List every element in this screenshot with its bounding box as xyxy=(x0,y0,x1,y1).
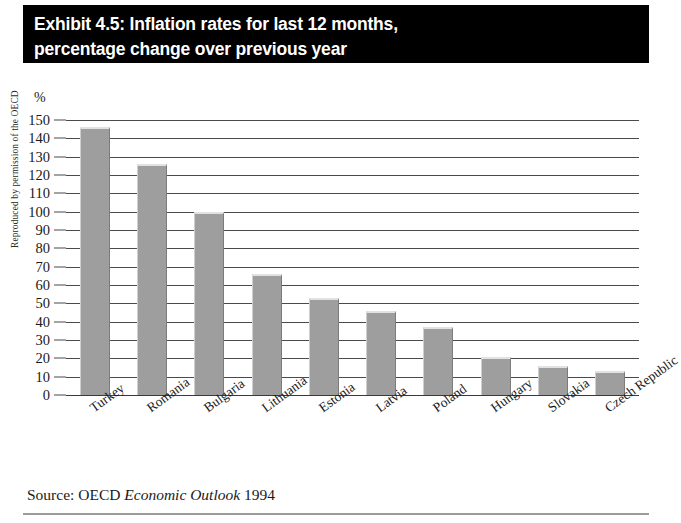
y-axis-tick-label: 40 xyxy=(36,314,51,329)
y-axis-tick-label: 130 xyxy=(28,149,50,164)
bar-slot xyxy=(194,120,224,395)
x-axis-category-labels: TurkeyRomaniaBulgariaLithuaniaEstoniaLat… xyxy=(66,395,639,475)
vertical-credit-container: Reproduced by permission of the OECD xyxy=(0,0,24,523)
bar-slot xyxy=(481,120,511,395)
page-title-line-2: percentage change over previous year xyxy=(34,37,639,62)
y-axis-tick xyxy=(54,156,66,157)
plot-area xyxy=(66,120,639,395)
y-axis-tick xyxy=(54,376,66,377)
y-axis-labels: 0102030405060708090100110120130140150 xyxy=(23,120,66,395)
y-axis-tick xyxy=(54,175,66,176)
y-axis-unit-label: % xyxy=(34,90,46,106)
bar xyxy=(252,274,282,395)
source-year: 1994 xyxy=(244,486,275,503)
y-axis-tick xyxy=(54,230,66,231)
bar-slot xyxy=(252,120,282,395)
bar xyxy=(80,127,110,395)
y-axis-tick xyxy=(54,120,66,121)
bottom-divider xyxy=(23,513,649,515)
y-axis-tick xyxy=(54,321,66,322)
source-attribution: Source: OECD Economic Outlook 1994 xyxy=(27,486,275,504)
bar xyxy=(423,327,453,395)
y-axis-tick-label: 100 xyxy=(28,204,50,219)
y-axis-tick-label: 30 xyxy=(36,333,51,348)
y-axis-tick-label: 90 xyxy=(36,223,51,238)
bar-chart: % 0102030405060708090100110120130140150 … xyxy=(23,76,649,476)
y-axis-tick-label: 150 xyxy=(28,113,50,128)
bar-slot xyxy=(137,120,167,395)
y-axis-tick xyxy=(54,193,66,194)
bar-slot xyxy=(309,120,339,395)
y-axis-tick xyxy=(54,266,66,267)
y-axis-tick xyxy=(54,285,66,286)
bar-slot xyxy=(366,120,396,395)
y-axis-tick xyxy=(54,138,66,139)
bar-series xyxy=(66,120,639,395)
y-axis-tick xyxy=(54,211,66,212)
y-axis-tick xyxy=(54,395,66,396)
y-axis-tick xyxy=(54,340,66,341)
bar xyxy=(137,164,167,395)
page-title-line-1: Exhibit 4.5: Inflation rates for last 12… xyxy=(34,12,639,37)
y-axis-tick xyxy=(54,358,66,359)
source-prefix: Source: OECD xyxy=(27,486,120,503)
y-axis-tick-label: 0 xyxy=(43,388,50,403)
bar-slot xyxy=(538,120,568,395)
y-axis-tick-label: 60 xyxy=(36,278,51,293)
bar-slot xyxy=(423,120,453,395)
y-axis-tick xyxy=(54,303,66,304)
y-axis-tick-label: 80 xyxy=(36,241,51,256)
y-axis-tick xyxy=(54,248,66,249)
source-publication-title: Economic Outlook xyxy=(124,486,240,503)
reproduction-credit-label: Reproduced by permission of the OECD xyxy=(10,28,20,248)
bar-slot xyxy=(595,120,625,395)
y-axis-tick-label: 70 xyxy=(36,259,51,274)
y-axis-tick-label: 120 xyxy=(28,168,50,183)
bar xyxy=(366,311,396,395)
bar xyxy=(309,298,339,395)
exhibit-title-banner: Exhibit 4.5: Inflation rates for last 12… xyxy=(23,5,649,63)
bar xyxy=(194,212,224,395)
y-axis-tick-label: 20 xyxy=(36,351,51,366)
y-axis-tick-label: 140 xyxy=(28,131,50,146)
y-axis-tick-label: 10 xyxy=(36,369,51,384)
y-axis-tick-label: 50 xyxy=(36,296,51,311)
bar-slot xyxy=(80,120,110,395)
y-axis-tick-label: 110 xyxy=(29,186,50,201)
